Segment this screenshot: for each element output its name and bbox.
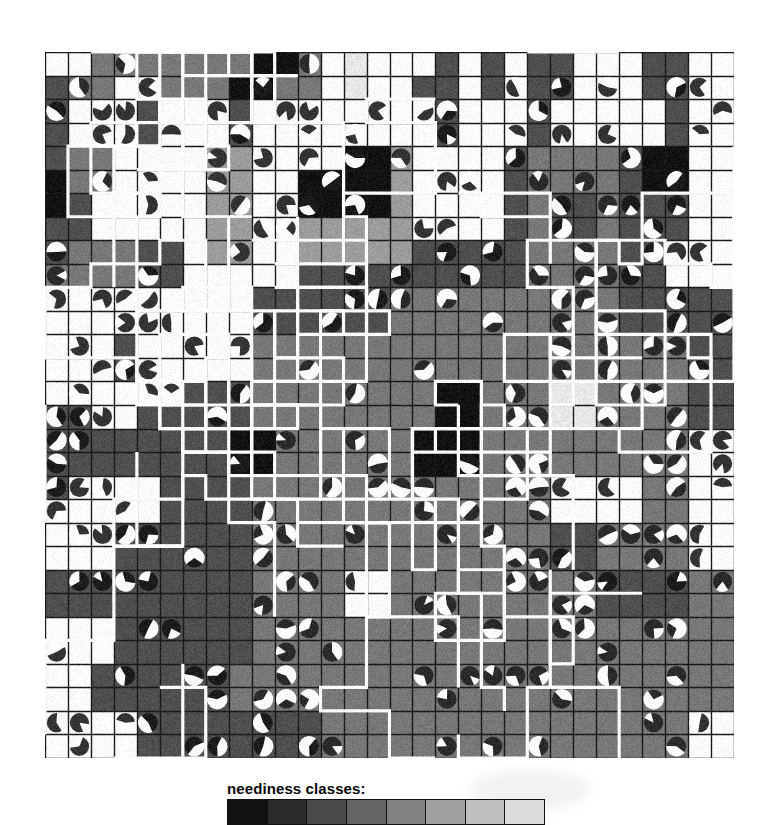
legend-swatch-1 [268, 800, 308, 824]
legend-swatch-3 [347, 800, 387, 824]
legend-swatch-2 [307, 800, 347, 824]
legend-swatch-5 [426, 800, 466, 824]
legend-swatch-7 [505, 800, 544, 824]
legend-swatch-0 [228, 800, 268, 824]
legend-color-bar [227, 799, 545, 825]
legend-title: neediness classes: [227, 781, 547, 797]
legend-swatch-6 [466, 800, 506, 824]
legend: neediness classes: [227, 781, 547, 825]
grid-map [45, 52, 734, 758]
legend-swatch-4 [387, 800, 427, 824]
grid-map-canvas [45, 52, 734, 758]
